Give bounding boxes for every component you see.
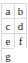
table-cell: g [1, 49, 14, 63]
table-cell: b [14, 4, 27, 18]
table-cell: e [1, 34, 14, 48]
letter-grid-table: a b c d e f g [0, 0, 28, 63]
table-row: a b [1, 3, 27, 18]
table-row: c d [1, 18, 27, 33]
table-cell: a [1, 4, 14, 18]
table-cell: c [1, 19, 14, 33]
table-row: e f [1, 33, 27, 48]
table-row: g [1, 48, 27, 63]
table-cell: d [14, 19, 27, 33]
table-cell-empty [14, 48, 27, 62]
table-cell: f [14, 34, 27, 48]
